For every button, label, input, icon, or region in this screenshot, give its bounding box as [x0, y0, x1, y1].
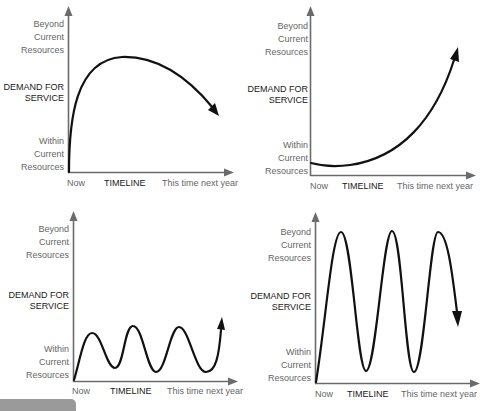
- x-axis: [73, 378, 238, 386]
- x-axis: [68, 169, 234, 177]
- demand-curve: [69, 57, 219, 172]
- y-axis-arrow-icon: [65, 6, 73, 16]
- curve-arrowhead-icon: [452, 311, 462, 327]
- chart-bottom-left: [0, 200, 240, 411]
- x-axis-arrow-icon: [224, 169, 234, 177]
- demand-curve: [311, 47, 459, 166]
- corner-decoration-bar: [0, 399, 76, 411]
- chart-bottom-right: [240, 200, 483, 411]
- y-axis-arrow-icon: [312, 212, 320, 222]
- panel-bottom-left: Beyond Current Resources DEMAND FOR SERV…: [0, 200, 240, 411]
- demand-curve: [316, 231, 462, 382]
- y-axis-arrow-icon: [70, 211, 78, 221]
- x-axis-arrow-icon: [470, 380, 480, 388]
- y-axis: [70, 211, 78, 382]
- x-axis: [310, 172, 476, 180]
- curve-arrowhead-icon: [217, 317, 225, 330]
- y-axis: [307, 6, 315, 176]
- y-axis: [312, 212, 320, 384]
- chart-top-right: [240, 0, 483, 200]
- x-axis: [315, 380, 480, 388]
- curve-arrowhead-icon: [450, 47, 459, 62]
- panel-top-left: Beyond Current Resources DEMAND FOR SERV…: [0, 0, 240, 200]
- panel-bottom-right: Beyond Current Resources DEMAND FOR SERV…: [240, 200, 483, 411]
- chart-top-left: [0, 0, 240, 200]
- x-axis-arrow-icon: [466, 172, 476, 180]
- demand-curve: [74, 317, 225, 380]
- x-axis-arrow-icon: [228, 378, 238, 386]
- panel-top-right: Beyond Current Resources DEMAND FOR SERV…: [240, 0, 483, 200]
- y-axis-arrow-icon: [307, 6, 315, 16]
